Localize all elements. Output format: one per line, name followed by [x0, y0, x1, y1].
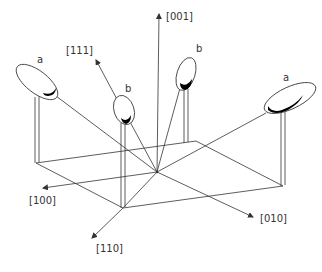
ellipse-left-a: [11, 58, 64, 106]
axis-010-line: [157, 172, 253, 217]
axis-label-001: [001]: [166, 12, 193, 22]
axis-label-010: [010]: [260, 214, 287, 224]
diagram-canvas: [001] [111] [100] [010] [110] a b b a: [0, 0, 322, 272]
axis-label-100: [100]: [29, 196, 56, 206]
ellipse-letter-right-a: a: [283, 73, 289, 83]
ellipse-left-b: [110, 93, 138, 128]
ellipse-letter-left-a: a: [37, 55, 43, 65]
floor-plane: [36, 141, 283, 208]
ellipse-right-a: [260, 76, 320, 120]
axis-001-line: [157, 14, 159, 172]
rays: [56, 88, 266, 172]
axis-label-110: [110]: [96, 244, 123, 254]
axis-label-111: [111]: [66, 46, 93, 56]
ellipse-letter-left-b: b: [125, 84, 131, 94]
ellipse-letter-right-b: b: [196, 44, 202, 54]
support-posts: [35, 89, 285, 208]
axis-110-line: [92, 208, 123, 238]
axis-100-line: [43, 172, 157, 188]
crystal-axes-diagram: [0, 0, 322, 272]
ellipse-right-b: [172, 55, 200, 93]
